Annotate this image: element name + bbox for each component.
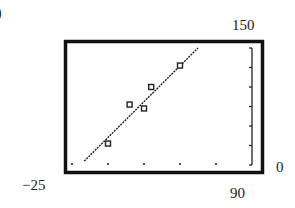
data-point-marker (149, 85, 154, 90)
calculator-plot (0, 0, 295, 208)
x-tick-dot (107, 163, 109, 165)
x-tick-dot (215, 163, 217, 165)
data-point-marker (127, 102, 132, 107)
x-tick-dot (179, 163, 181, 165)
x-tick-dots (71, 163, 217, 165)
window-frame (66, 42, 263, 173)
data-point-marker (178, 63, 183, 68)
x-tick-dot (143, 163, 145, 165)
frame-border (66, 42, 263, 173)
data-point-marker (142, 106, 147, 111)
y-axis (249, 48, 252, 165)
data-point-marker (106, 141, 111, 146)
x-tick-dot (71, 163, 73, 165)
